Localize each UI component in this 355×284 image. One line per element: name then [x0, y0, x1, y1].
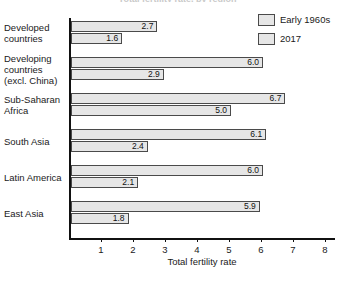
bar-row: 6.7 — [71, 93, 335, 104]
x-tick-label: 2 — [125, 244, 141, 255]
plot-area: 2.71.66.02.96.75.06.12.46.02.15.91.8 123… — [69, 18, 335, 238]
bar-group: 6.02.9 — [71, 57, 335, 81]
category-label-line: Developed — [4, 22, 66, 33]
bar-2017: 1.6 — [71, 33, 122, 44]
x-tick-label: 5 — [221, 244, 237, 255]
category-label-line: Latin America — [4, 172, 66, 183]
bar-row: 2.1 — [71, 177, 335, 188]
bar-early-1960s: 6.0 — [71, 57, 263, 68]
bar-row: 6.0 — [71, 165, 335, 176]
category-label-line: South Asia — [4, 136, 66, 147]
x-tick-mark — [261, 238, 262, 242]
bar-row: 5.0 — [71, 105, 335, 116]
bar-value-label: 5.9 — [244, 202, 259, 211]
category-label-line: (excl. China) — [4, 75, 66, 86]
bar-group: 6.12.4 — [71, 129, 335, 153]
category-label: Sub-SaharanAfrica — [4, 94, 66, 116]
bar-early-1960s: 5.9 — [71, 201, 260, 212]
bar-row: 2.9 — [71, 69, 335, 80]
bar-value-label: 1.8 — [113, 214, 128, 223]
bar-value-label: 6.1 — [250, 130, 265, 139]
category-label: South Asia — [4, 136, 66, 147]
x-tick-mark — [197, 238, 198, 242]
bar-early-1960s: 6.7 — [71, 93, 285, 104]
bar-row: 1.6 — [71, 33, 335, 44]
bar-row: 2.4 — [71, 141, 335, 152]
x-tick-label: 7 — [285, 244, 301, 255]
x-tick-mark — [293, 238, 294, 242]
category-label: Developingcountries(excl. China) — [4, 53, 66, 86]
category-label-line: countries — [4, 33, 66, 44]
bar-2017: 2.1 — [71, 177, 138, 188]
category-label-line: Africa — [4, 105, 66, 116]
category-label-line: East Asia — [4, 208, 66, 219]
bar-value-label: 6.0 — [247, 166, 262, 175]
x-tick-mark — [133, 238, 134, 242]
bar-early-1960s: 6.1 — [71, 129, 266, 140]
bar-value-label: 6.0 — [247, 58, 262, 67]
x-tick-mark — [325, 238, 326, 242]
x-tick-label: 3 — [157, 244, 173, 255]
category-label-line: Developing — [4, 53, 66, 64]
bar-2017: 1.8 — [71, 213, 129, 224]
bar-2017: 5.0 — [71, 105, 231, 116]
category-label-line: countries — [4, 64, 66, 75]
bar-row: 1.8 — [71, 213, 335, 224]
chart-title: Total fertility rate, by region — [0, 0, 355, 2]
bar-group: 6.75.0 — [71, 93, 335, 117]
x-tick-label: 8 — [317, 244, 333, 255]
bar-early-1960s: 2.7 — [71, 21, 157, 32]
category-label: Developedcountries — [4, 22, 66, 44]
bar-row: 2.7 — [71, 21, 335, 32]
x-tick-mark — [229, 238, 230, 242]
category-label: East Asia — [4, 208, 66, 219]
bar-row: 6.1 — [71, 129, 335, 140]
bar-value-label: 2.1 — [122, 178, 137, 187]
x-tick-label: 1 — [93, 244, 109, 255]
bar-value-label: 5.0 — [215, 106, 230, 115]
bar-group: 5.91.8 — [71, 201, 335, 225]
bar-group: 2.71.6 — [71, 21, 335, 45]
bar-2017: 2.4 — [71, 141, 148, 152]
x-tick-mark — [165, 238, 166, 242]
bar-2017: 2.9 — [71, 69, 164, 80]
bar-row: 5.9 — [71, 201, 335, 212]
fertility-rate-bar-chart: Total fertility rate, by region Early 19… — [0, 0, 355, 284]
bar-value-label: 6.7 — [270, 94, 285, 103]
bar-group: 6.02.1 — [71, 165, 335, 189]
bar-early-1960s: 6.0 — [71, 165, 263, 176]
bar-value-label: 2.4 — [132, 142, 147, 151]
x-tick-mark — [101, 238, 102, 242]
x-tick-label: 6 — [253, 244, 269, 255]
bar-value-label: 1.6 — [106, 34, 121, 43]
bar-value-label: 2.9 — [148, 70, 163, 79]
x-tick-label: 4 — [189, 244, 205, 255]
category-label-line: Sub-Saharan — [4, 94, 66, 105]
category-label: Latin America — [4, 172, 66, 183]
bar-value-label: 2.7 — [142, 22, 157, 31]
x-axis-title: Total fertility rate — [69, 256, 335, 267]
bar-row: 6.0 — [71, 57, 335, 68]
x-axis-line — [69, 238, 335, 240]
